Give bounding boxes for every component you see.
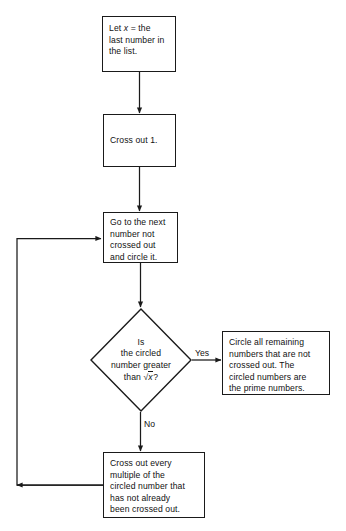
node-cross-multiples-line4: has not already: [110, 493, 170, 503]
node-next-number-line1: Go to the next: [110, 217, 165, 227]
node-cross-multiples-line5: been crossed out.: [110, 504, 180, 514]
node-start-line1b: = the: [131, 23, 151, 33]
node-cross-multiples-line1: Cross out every: [110, 458, 172, 468]
node-start-variable: x: [124, 23, 128, 33]
edge-label-no: No: [144, 419, 155, 429]
node-result-line4: circled numbers are: [229, 372, 306, 382]
node-cross-multiples-line2: multiple of the: [110, 470, 165, 480]
edge-label-yes: Yes: [195, 348, 209, 358]
node-next-number-line4: and circle it.: [110, 252, 157, 262]
node-cross-multiples-line3: circled number that: [110, 481, 185, 491]
decision-diamond-shape: [91, 309, 191, 411]
node-start-line1: Let: [109, 23, 121, 33]
flowchart-canvas: Let x = the last number in the list. Cro…: [0, 0, 346, 531]
node-cross-multiples[interactable]: Cross out every multiple of the circled …: [103, 452, 205, 518]
node-cross-out-one-label: Cross out 1.: [110, 135, 158, 147]
node-start-line2: last number in: [109, 35, 164, 45]
node-cross-out-one[interactable]: Cross out 1.: [103, 114, 176, 167]
node-result-line1: Circle all remaining: [229, 337, 304, 347]
node-start-line3: the list.: [109, 46, 137, 56]
node-result-line5: the prime numbers.: [229, 383, 305, 393]
node-next-number[interactable]: Go to the next number not crossed out an…: [103, 212, 178, 263]
node-result[interactable]: Circle all remaining numbers that are no…: [222, 331, 330, 395]
node-start[interactable]: Let x = the last number in the list.: [102, 16, 176, 72]
node-next-number-line3: crossed out: [110, 240, 156, 250]
node-result-line2: numbers that are not: [229, 349, 310, 359]
node-result-line3: crossed out. The: [229, 360, 294, 370]
node-decision[interactable]: Is the circled number greater than √x?: [90, 308, 192, 412]
node-next-number-line2: number not: [110, 229, 154, 239]
